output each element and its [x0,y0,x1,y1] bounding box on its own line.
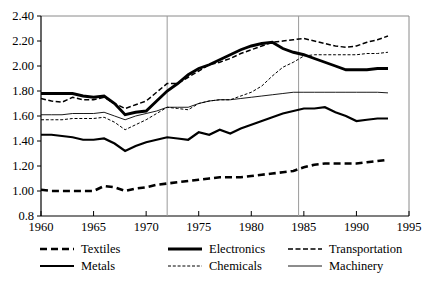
x-tick-label: 1995 [397,220,422,234]
legend-label-chemicals: Chemicals [209,259,262,273]
x-tick-label: 1985 [291,220,316,234]
y-tick-label: 2.00 [12,59,34,73]
x-tick-label: 1970 [134,220,159,234]
legend-label-metals: Metals [81,259,115,273]
legend-label-textiles: Textiles [81,242,121,256]
legend-label-electronics: Electronics [209,242,265,256]
x-tick-label: 1980 [239,220,264,234]
legend-label-transportation: Transportation [329,242,403,256]
y-tick-label: 1.00 [12,184,34,198]
x-tick-label: 1990 [344,220,369,234]
y-tick-label: 2.20 [12,34,34,48]
line-chart: 0.81.001.201.401.601.802.002.202.40 1960… [0,0,429,284]
y-tick-label: 1.60 [12,109,34,123]
legend-label-machinery: Machinery [329,259,384,273]
y-tick-label: 1.80 [12,84,34,98]
x-tick-label: 1960 [29,220,54,234]
chart-container: 0.81.001.201.401.601.802.002.202.40 1960… [0,0,429,284]
y-tick-label: 1.40 [12,134,34,148]
x-tick-label: 1975 [186,220,211,234]
y-tick-label: 2.40 [12,9,34,23]
x-tick-label: 1965 [81,220,106,234]
y-tick-label: 1.20 [12,159,34,173]
